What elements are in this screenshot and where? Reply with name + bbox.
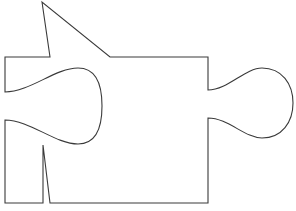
puzzle-piece-figure [0, 0, 296, 211]
figure-canvas [0, 0, 296, 211]
